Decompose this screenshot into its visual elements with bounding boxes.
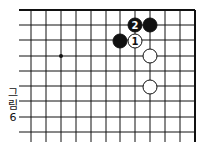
caption-char-3: 6 — [6, 112, 20, 124]
board-grid — [19, 10, 195, 142]
black-stone — [113, 34, 127, 48]
move-number: 2 — [132, 20, 139, 31]
move-number: 1 — [132, 36, 139, 47]
white-stone: 1 — [128, 34, 142, 48]
go-board-diagram: 21 — [0, 0, 208, 154]
black-stone — [143, 18, 157, 32]
white-stone — [143, 80, 157, 94]
star-points — [59, 54, 63, 58]
figure-caption: 그 림 6 — [6, 88, 20, 124]
star-point — [59, 54, 63, 58]
black-stone: 2 — [128, 18, 142, 32]
white-stone — [143, 49, 157, 63]
